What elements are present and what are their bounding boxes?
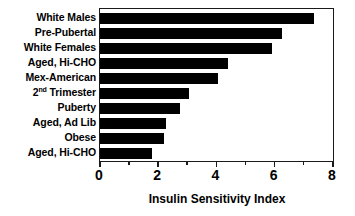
bar — [100, 58, 228, 69]
x-tick-minor — [128, 161, 130, 165]
x-tick-label: 2 — [142, 168, 172, 183]
category-label: Obese — [0, 132, 96, 143]
bar — [100, 103, 180, 114]
bar — [100, 43, 272, 54]
x-tick-minor — [245, 161, 247, 165]
bar — [100, 118, 166, 129]
category-label: White Males — [0, 12, 96, 23]
plot-frame — [99, 8, 334, 162]
category-label: Puberty — [0, 102, 96, 113]
insulin-sensitivity-bar-chart: White MalesPre-PubertalWhite FemalesAged… — [0, 0, 355, 216]
x-tick-minor — [186, 161, 188, 165]
category-label: Mex-American — [0, 72, 96, 83]
x-axis-title: Insulin Sensitivity Index — [99, 192, 335, 206]
bar — [100, 73, 218, 84]
category-label: Pre-Pubertal — [0, 27, 96, 38]
bar — [100, 28, 282, 39]
x-tick-minor — [303, 161, 305, 165]
category-axis-labels: White MalesPre-PubertalWhite FemalesAged… — [0, 10, 96, 160]
plot-area — [100, 9, 333, 161]
bar — [100, 13, 314, 24]
category-label: 2nd Trimester — [0, 87, 96, 98]
x-tick-label: 6 — [259, 168, 289, 183]
x-tick-label: 0 — [84, 168, 114, 183]
category-label: Aged, Ad Lib — [0, 117, 96, 128]
bar — [100, 133, 164, 144]
bar — [100, 88, 189, 99]
x-axis-tick-labels: 02468 — [99, 168, 335, 184]
category-label: Aged, Hi-CHO — [0, 57, 96, 68]
x-tick-label: 4 — [201, 168, 231, 183]
bar — [100, 148, 152, 159]
x-tick-label: 8 — [317, 168, 347, 183]
category-label: White Females — [0, 42, 96, 53]
category-label: Aged, Hi-CHO — [0, 147, 96, 158]
